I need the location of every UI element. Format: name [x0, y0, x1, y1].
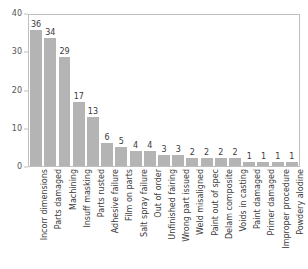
y-axis: 010203040	[0, 14, 28, 167]
x-axis-labels: Incorr dimensionsParts damagedMachiningI…	[29, 169, 299, 267]
x-label-slot: Paint damaged	[242, 169, 256, 267]
bar-value-label: 29	[59, 48, 69, 56]
x-label-slot: Delam composite	[214, 169, 228, 267]
bar	[158, 155, 170, 166]
x-label-slot: Wrong part issued	[171, 169, 185, 267]
x-label-slot: Out of order	[143, 169, 157, 267]
bar-value-label: 2	[190, 149, 195, 157]
bar-value-label: 1	[261, 153, 266, 161]
bar-value-label: 1	[247, 153, 252, 161]
bar-slot: 3	[157, 15, 171, 166]
bar	[144, 151, 156, 166]
bar-value-label: 2	[204, 149, 209, 157]
y-tick-label: 20	[12, 87, 22, 95]
x-label-slot: Voids in casting	[228, 169, 242, 267]
x-label-slot: Paint out of spec	[200, 169, 214, 267]
bar-value-label: 1	[275, 153, 280, 161]
bar-slot: 2	[200, 15, 214, 166]
y-tick-label: 30	[12, 48, 22, 56]
bar-value-label: 17	[74, 93, 84, 101]
bar-slot: 13	[86, 15, 100, 166]
bar-slot: 4	[143, 15, 157, 166]
bar-value-label: 4	[133, 142, 138, 150]
bar-value-label: 4	[147, 142, 152, 150]
x-label-slot: Improper procedure	[271, 169, 285, 267]
bar-chart: 010203040 363429171365443322221111 Incor…	[0, 0, 308, 269]
x-tick-label: Powdery alodine	[296, 169, 305, 235]
x-label-slot: Insuff masking	[72, 169, 86, 267]
bar	[286, 162, 298, 166]
bar	[115, 147, 127, 166]
bar-slot: 1	[256, 15, 270, 166]
bar	[229, 158, 241, 166]
bar-value-label: 5	[119, 138, 124, 146]
bar-slot: 36	[29, 15, 43, 166]
bars-layer: 363429171365443322221111	[29, 15, 299, 166]
bar	[243, 162, 255, 166]
bar-slot: 4	[128, 15, 142, 166]
x-label-slot: Adhesive failure	[100, 169, 114, 267]
bar	[172, 155, 184, 166]
x-label-slot: Powdery alodine	[285, 169, 299, 267]
x-label-slot: Primer damaged	[256, 169, 270, 267]
bar-slot: 29	[57, 15, 71, 166]
x-label-slot: Film on parts	[114, 169, 128, 267]
y-tick-label: 10	[12, 125, 22, 133]
x-label-slot: Parts rusted	[86, 169, 100, 267]
bar-value-label: 3	[161, 146, 166, 154]
bar-value-label: 13	[88, 108, 98, 116]
bar-slot: 2	[214, 15, 228, 166]
bar	[215, 158, 227, 166]
bar	[87, 117, 99, 166]
bar-slot: 5	[114, 15, 128, 166]
bar-value-label: 34	[45, 29, 55, 37]
x-label-slot: Parts damaged	[43, 169, 57, 267]
x-label-slot: Machining	[57, 169, 71, 267]
bar-value-label: 36	[31, 21, 41, 29]
x-label-slot: Unfinished fairing	[157, 169, 171, 267]
bar-value-label: 2	[218, 149, 223, 157]
bar	[59, 57, 71, 166]
bar-value-label: 3	[176, 146, 181, 154]
bar	[30, 30, 42, 166]
bar	[44, 38, 56, 166]
bar-slot: 2	[185, 15, 199, 166]
y-tick-label: 0	[17, 163, 22, 171]
bar-value-label: 1	[289, 153, 294, 161]
bar	[186, 158, 198, 166]
bar-slot: 2	[228, 15, 242, 166]
bar	[257, 162, 269, 166]
bar-slot: 1	[242, 15, 256, 166]
bar	[201, 158, 213, 166]
x-label-slot: Incorr dimensions	[29, 169, 43, 267]
bar-slot: 1	[285, 15, 299, 166]
bar-slot: 3	[171, 15, 185, 166]
y-tick-label: 40	[12, 10, 22, 18]
bar	[73, 102, 85, 166]
bar-slot: 17	[72, 15, 86, 166]
bar	[272, 162, 284, 166]
x-label-slot: Salt spray failure	[128, 169, 142, 267]
bar	[130, 151, 142, 166]
bar-slot: 1	[271, 15, 285, 166]
bar	[101, 143, 113, 166]
bar-slot: 34	[43, 15, 57, 166]
bar-slot: 6	[100, 15, 114, 166]
bar-value-label: 6	[105, 134, 110, 142]
x-label-slot: Weld misaligned	[185, 169, 199, 267]
bar-value-label: 2	[232, 149, 237, 157]
